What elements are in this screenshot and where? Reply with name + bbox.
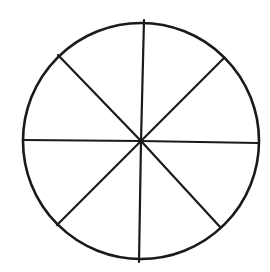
spoke-bottom [139, 141, 141, 262]
spoke-right [141, 141, 258, 143]
center-point [138, 138, 143, 143]
spoke-lower-left [57, 141, 141, 225]
spoke-upper-right [141, 58, 224, 141]
spoke-lower-right [141, 141, 221, 228]
spoke-upper-left [58, 55, 141, 141]
spoke-left [23, 140, 141, 141]
spoke-top [141, 20, 144, 141]
sector-circle-diagram [0, 0, 270, 272]
